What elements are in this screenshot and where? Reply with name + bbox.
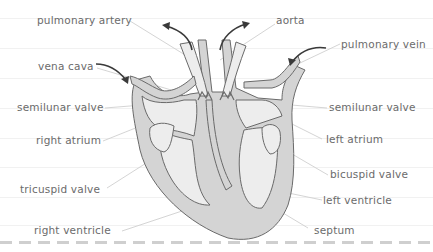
label-right-atrium: right atrium (36, 134, 101, 146)
label-right-ventricle: right ventricle (34, 224, 111, 236)
label-left-atrium: left atrium (326, 133, 383, 145)
arrowhead-icon (121, 76, 129, 84)
label-semilunar-valve-right: semilunar valve (329, 101, 416, 113)
label-vena-cava: vena cava (38, 60, 94, 72)
label-pulmonary-vein: pulmonary vein (341, 38, 426, 50)
arrowhead-icon (242, 21, 250, 29)
label-septum: septum (314, 224, 355, 236)
label-left-ventricle: left ventricle (323, 194, 392, 206)
label-aorta: aorta (276, 14, 305, 26)
arrowhead-icon (162, 22, 170, 30)
heart-diagram: pulmonary artery vena cava semilunar val… (0, 0, 433, 252)
label-bicuspid-valve: bicuspid valve (330, 168, 408, 180)
label-pulmonary-artery: pulmonary artery (37, 14, 132, 26)
label-semilunar-valve-left: semilunar valve (17, 101, 104, 113)
label-tricuspid-valve: tricuspid valve (20, 183, 100, 195)
